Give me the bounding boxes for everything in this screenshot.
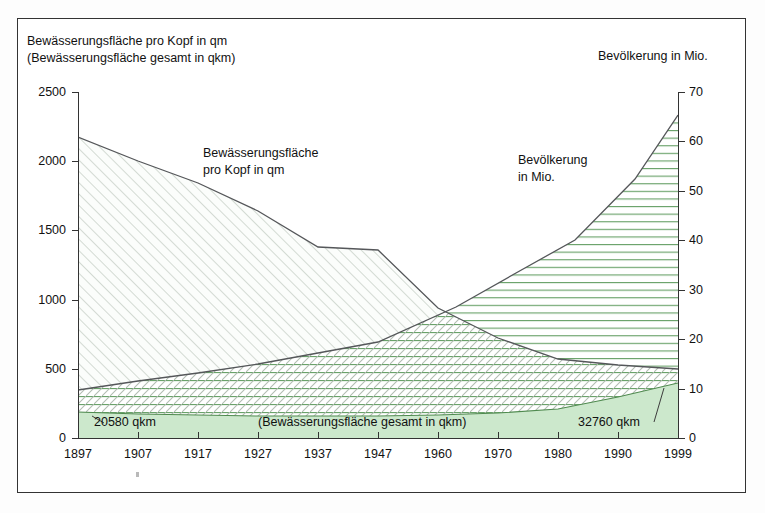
scan-artifact-mark bbox=[136, 472, 139, 477]
band-label-start: 20580 qkm bbox=[94, 415, 156, 429]
y-tick-right-30 bbox=[679, 290, 685, 291]
chart-screenshot: Bewässerungsfläche pro Kopf in qm (Bewäs… bbox=[0, 0, 765, 513]
x-label-1960: 1960 bbox=[408, 447, 468, 461]
right-axis-title: Bevölkerung in Mio. bbox=[598, 48, 708, 65]
annotation-population: Bevölkerung in Mio. bbox=[518, 152, 588, 186]
y-axis-left-line bbox=[78, 92, 79, 439]
annotation-irrigation: Bewässerungsfläche pro Kopf in qm bbox=[203, 145, 318, 179]
left-axis-title: Bewässerungsfläche pro Kopf in qm (Bewäs… bbox=[27, 33, 235, 67]
left-axis-title-line2: (Bewässerungsfläche gesamt in qkm) bbox=[27, 50, 235, 67]
y-label-left-2000: 2000 bbox=[22, 154, 66, 168]
y-tick-right-40 bbox=[679, 240, 685, 241]
y-label-right-70: 70 bbox=[689, 85, 729, 99]
y-tick-right-50 bbox=[679, 191, 685, 192]
x-label-1927: 1927 bbox=[228, 447, 288, 461]
x-tick-1917 bbox=[198, 432, 199, 438]
y-label-left-1000: 1000 bbox=[22, 293, 66, 307]
x-label-1999: 1999 bbox=[648, 447, 708, 461]
y-tick-right-20 bbox=[679, 339, 685, 340]
x-label-1970: 1970 bbox=[468, 447, 528, 461]
annotation-irrigation-line1: Bewässerungsfläche bbox=[203, 145, 318, 162]
annotation-irrigation-line2: pro Kopf in qm bbox=[203, 162, 318, 179]
x-label-1990: 1990 bbox=[588, 447, 648, 461]
band-label-caption: (Bewässerungsfläche gesamt in qkm) bbox=[258, 415, 466, 429]
y-label-right-60: 60 bbox=[689, 134, 729, 148]
y-label-left-2500: 2500 bbox=[22, 85, 66, 99]
y-tick-left-2000 bbox=[72, 161, 78, 162]
x-tick-1897 bbox=[78, 432, 79, 438]
x-tick-1980 bbox=[558, 432, 559, 438]
x-axis-line bbox=[78, 438, 679, 439]
x-label-1897: 1897 bbox=[48, 447, 108, 461]
y-tick-left-500 bbox=[72, 369, 78, 370]
x-tick-1907 bbox=[138, 432, 139, 438]
y-label-right-0: 0 bbox=[689, 431, 729, 445]
y-tick-right-60 bbox=[679, 141, 685, 142]
band-label-end: 32760 qkm bbox=[578, 415, 640, 429]
y-tick-left-1500 bbox=[72, 230, 78, 231]
x-label-1907: 1907 bbox=[108, 447, 168, 461]
y-label-right-10: 10 bbox=[689, 382, 729, 396]
y-axis-right-line bbox=[678, 92, 679, 439]
y-tick-right-10 bbox=[679, 389, 685, 390]
x-tick-1970 bbox=[498, 432, 499, 438]
x-tick-1927 bbox=[258, 432, 259, 438]
x-tick-1990 bbox=[618, 432, 619, 438]
y-tick-left-1000 bbox=[72, 300, 78, 301]
y-tick-left-0 bbox=[72, 438, 78, 439]
x-label-1917: 1917 bbox=[168, 447, 228, 461]
x-label-1980: 1980 bbox=[528, 447, 588, 461]
x-label-1937: 1937 bbox=[288, 447, 348, 461]
y-tick-right-70 bbox=[679, 92, 685, 93]
y-label-left-0: 0 bbox=[22, 431, 66, 445]
left-axis-title-line1: Bewässerungsfläche pro Kopf in qm bbox=[27, 33, 235, 50]
y-label-right-40: 40 bbox=[689, 233, 729, 247]
x-tick-1947 bbox=[378, 432, 379, 438]
y-label-right-30: 30 bbox=[689, 283, 729, 297]
x-tick-1999 bbox=[678, 432, 679, 438]
y-tick-right-0 bbox=[679, 438, 685, 439]
x-tick-1960 bbox=[438, 432, 439, 438]
y-tick-left-2500 bbox=[72, 92, 78, 93]
y-label-right-20: 20 bbox=[689, 332, 729, 346]
y-label-right-50: 50 bbox=[689, 184, 729, 198]
x-label-1947: 1947 bbox=[348, 447, 408, 461]
annotation-population-line1: Bevölkerung bbox=[518, 152, 588, 169]
plot-area bbox=[78, 92, 678, 438]
y-label-left-1500: 1500 bbox=[22, 223, 66, 237]
y-label-left-500: 500 bbox=[22, 362, 66, 376]
x-tick-1937 bbox=[318, 432, 319, 438]
annotation-population-line2: in Mio. bbox=[518, 169, 588, 186]
